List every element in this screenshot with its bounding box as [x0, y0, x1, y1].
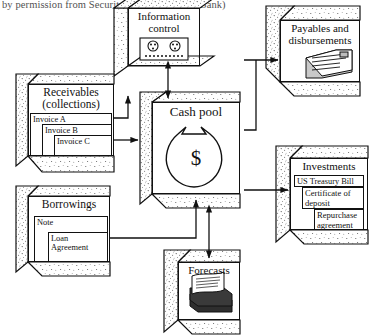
node-label-payables-line2: disbursements: [280, 34, 360, 46]
node-payables[interactable]: Payables and disbursements: [280, 20, 360, 82]
node-label-borrowings: Borrowings: [28, 198, 110, 210]
node-information-control[interactable]: Information control: [128, 8, 200, 66]
receivables-item-invoice-c[interactable]: Invoice C: [54, 135, 112, 156]
diagram-canvas: by permission from Security Pacific Nati…: [0, 0, 372, 336]
node-forecasts[interactable]: Forecasts: [178, 262, 240, 320]
node-label-investments: Investments: [290, 160, 368, 172]
node-label-forecasts: Forecasts: [178, 264, 240, 276]
edge-receivables-cash-2: [114, 96, 128, 118]
investments-item-treasury-bill[interactable]: US Treasury Bill: [294, 175, 364, 187]
borrowings-item-loan-agreement[interactable]: Loan Agreement: [48, 232, 108, 262]
edge-cash-payables-2: [244, 60, 256, 130]
node-receivables[interactable]: Receivables (collections) Invoice A Invo…: [28, 84, 114, 156]
node-investments[interactable]: Investments US Treasury Bill Certificate…: [290, 158, 368, 230]
node-label-receivables-line1: Receivables: [28, 86, 114, 98]
node-cash-pool[interactable]: Cash pool $: [152, 102, 240, 194]
node-label-information-control-line1: Information: [128, 10, 200, 22]
investments-item-certificate-of-deposit[interactable]: Certificate of deposit: [302, 187, 364, 209]
node-borrowings[interactable]: Borrowings Note Loan Agreement: [28, 196, 110, 262]
investments-item-repurchase-agreement[interactable]: Repurchase agreement: [314, 209, 364, 230]
node-label-cash-pool: Cash pool: [152, 106, 240, 118]
node-label-receivables-line2: (collections): [28, 98, 114, 110]
node-label-information-control-line2: control: [128, 22, 200, 34]
node-label-payables-line1: Payables and: [280, 22, 360, 34]
dollar-sign: $: [152, 146, 240, 171]
